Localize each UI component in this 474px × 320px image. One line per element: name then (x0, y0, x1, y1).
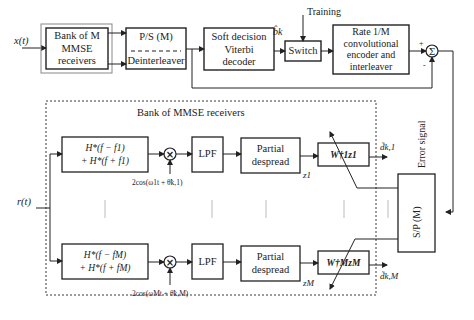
sp-box-label: S/P (M) (411, 206, 423, 238)
despread-1-label: Partial despread (241, 143, 300, 168)
bk-hat-label: b̂k (273, 26, 282, 38)
ps-box-bottom-label: Deinterleaver (126, 55, 186, 68)
lpf-m-label: LPF (192, 256, 223, 269)
encoder-box-label: Rate 1/M convolutional encoder and inter… (333, 26, 409, 72)
input-label-r: r(t) (17, 196, 31, 208)
svg-text:Σ: Σ (429, 47, 435, 57)
svg-text:×: × (166, 257, 174, 268)
minus-sign: - (423, 60, 426, 72)
plus-sign: + (419, 38, 424, 50)
training-label: Training (307, 6, 341, 18)
switch-label: Switch (285, 45, 321, 58)
output-1-label: d̃k,1 (380, 141, 395, 153)
bank-box-label: Bank of M MMSE receivers (46, 30, 108, 68)
error-signal-label: Error signal (416, 121, 428, 169)
svg-text:×: × (166, 149, 174, 160)
input-label-x: x(t) (14, 35, 29, 47)
oscillator-1-label: 2cos(ω1t + θ̃k,1) (132, 177, 182, 189)
despread-m-label: Partial despread (241, 251, 300, 276)
zm-label: zM (303, 277, 314, 289)
filter-1-label: H*(f − f1) + H*(f + f1) (62, 142, 148, 167)
lpf-1-label: LPF (192, 148, 223, 161)
viterbi-box-label: Soft decision Viterbi decoder (204, 31, 274, 69)
z1-label: z1 (303, 169, 311, 181)
oscillator-m-label: 2cos(ωMt + θ̃k,M) (132, 288, 188, 300)
weight-1-label: W†1z1 (318, 149, 369, 161)
filter-m-label: H*(f − fM) + H*(f + fM) (62, 249, 148, 274)
weight-m-label: W†MzM (318, 257, 369, 269)
ps-box-top-label: P/S (M) (126, 31, 186, 44)
bank-detail-title: Bank of MMSE receivers (137, 107, 245, 119)
output-m-label: d̃k,M (380, 270, 398, 282)
